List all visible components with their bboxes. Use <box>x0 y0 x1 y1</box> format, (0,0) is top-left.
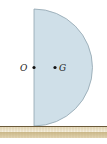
diagram-canvas: O G <box>0 0 107 144</box>
point-g-label: G <box>59 63 66 73</box>
point-o: O <box>20 63 36 73</box>
point-o-label: O <box>20 63 28 73</box>
ground-surface <box>0 126 107 138</box>
